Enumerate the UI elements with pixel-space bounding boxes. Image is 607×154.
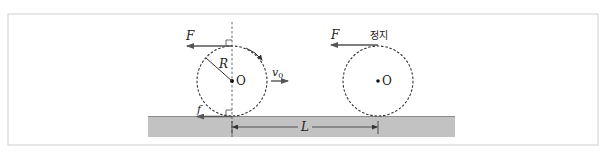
left-wheel-center-label: O [236,74,246,88]
distance-label: L [300,120,309,134]
force-label-top-left: F [185,29,195,43]
right-wheel-center-label: O [382,74,392,88]
stopped-label: 정지 [370,30,388,41]
right-wheel-center-dot [376,79,380,83]
radius-label: R [218,57,228,71]
force-label-top-right: F [330,28,340,42]
rolling-wheel-diagram: O R F v0 f O F 정지 L [0,0,607,154]
